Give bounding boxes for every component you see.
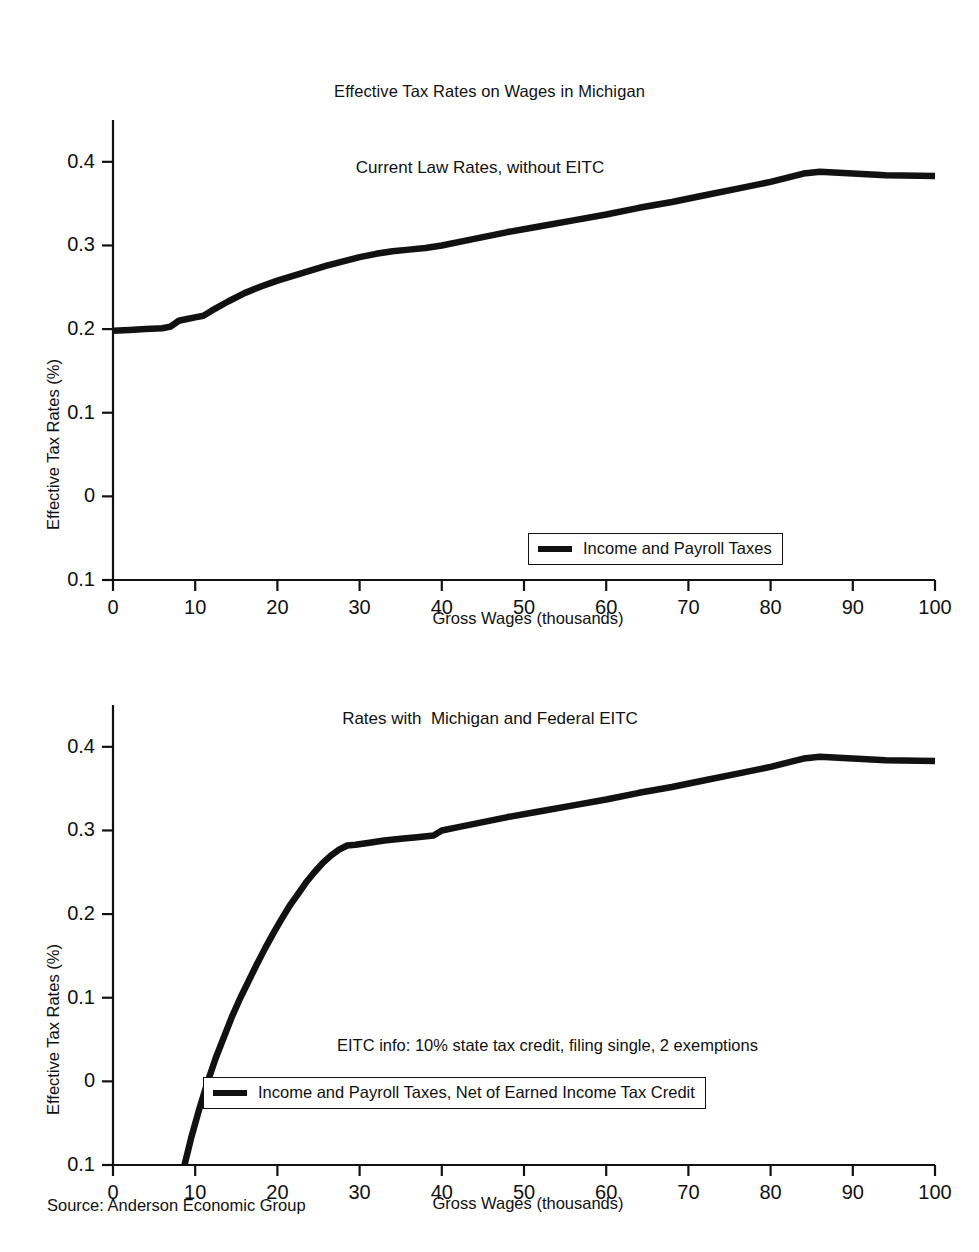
- legend-label-bottom: Income and Payroll Taxes, Net of Earned …: [258, 1083, 695, 1102]
- x-tick-label: 10: [184, 596, 206, 618]
- y-tick-label: 0.4: [67, 150, 95, 172]
- x-tick-label: 100: [918, 1181, 951, 1203]
- eitc-info-annotation: EITC info: 10% state tax credit, filing …: [337, 1036, 758, 1055]
- y-tick-label: 0.1: [67, 401, 95, 423]
- x-tick-label: 80: [759, 1181, 781, 1203]
- figure-title: Effective Tax Rates on Wages in Michigan: [0, 82, 979, 101]
- y-axis-title-top: Effective Tax Rates (%): [44, 359, 63, 530]
- x-tick-label: 0: [107, 596, 118, 618]
- legend-line-swatch-icon: [538, 546, 572, 552]
- figure-page: Effective Tax Rates on Wages in Michigan…: [0, 0, 979, 1252]
- x-axis-title-top: Gross Wages (thousands): [313, 609, 743, 628]
- data-line-top: [113, 172, 935, 331]
- y-tick-label: 0: [84, 484, 95, 506]
- legend-top[interactable]: Income and Payroll Taxes: [528, 533, 783, 565]
- source-note: Source: Anderson Economic Group: [47, 1196, 306, 1215]
- y-axis-title-bottom: Effective Tax Rates (%): [44, 944, 63, 1115]
- x-tick-label: 80: [759, 596, 781, 618]
- x-tick-label: 90: [842, 1181, 864, 1203]
- x-tick-label: 100: [918, 596, 951, 618]
- chart-panel-bottom: Rates with Michigan and Federal EITC 0.4…: [0, 695, 979, 1225]
- y-tick-label: 0.1: [67, 568, 95, 590]
- y-tick-label: 0.3: [67, 818, 95, 840]
- y-tick-label: 0.2: [67, 902, 95, 924]
- x-tick-label: 90: [842, 596, 864, 618]
- legend-bottom[interactable]: Income and Payroll Taxes, Net of Earned …: [203, 1077, 706, 1109]
- x-tick-label: 20: [266, 596, 288, 618]
- y-tick-label: 0: [84, 1069, 95, 1091]
- y-tick-label: 0.1: [67, 1153, 95, 1175]
- plot-area-top: 0.40.30.20.100.10102030405060708090100: [0, 110, 979, 640]
- legend-line-swatch-icon: [213, 1090, 247, 1096]
- plot-area-bottom: 0.40.30.20.100.10102030405060708090100: [0, 695, 979, 1225]
- y-tick-label: 0.4: [67, 735, 95, 757]
- y-tick-label: 0.2: [67, 317, 95, 339]
- legend-label-top: Income and Payroll Taxes: [583, 539, 772, 558]
- chart-panel-top: Current Law Rates, without EITC 0.40.30.…: [0, 110, 979, 640]
- x-axis-title-bottom: Gross Wages (thousands): [313, 1194, 743, 1213]
- y-tick-label: 0.1: [67, 986, 95, 1008]
- y-tick-label: 0.3: [67, 233, 95, 255]
